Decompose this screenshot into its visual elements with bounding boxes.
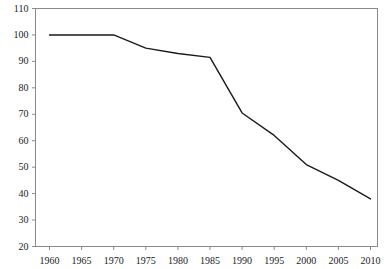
y-axis-tick-label: 40 xyxy=(0,189,29,199)
x-axis-tick-label: 1980 xyxy=(168,256,188,266)
y-axis-tick-label: 100 xyxy=(0,30,29,40)
y-axis-tick-label: 20 xyxy=(0,242,29,252)
x-axis-tick-label: 1975 xyxy=(136,256,156,266)
line-chart: 2030405060708090100110 19601965197019751… xyxy=(0,0,384,269)
y-axis-tick-label: 30 xyxy=(0,215,29,225)
y-axis-tick-marks xyxy=(32,9,36,247)
x-axis-tick-label: 1990 xyxy=(232,256,252,266)
y-axis-tick-label: 80 xyxy=(0,83,29,93)
y-axis-tick-label: 50 xyxy=(0,162,29,172)
x-axis-tick-label: 1970 xyxy=(104,256,124,266)
x-axis-tick-label: 1985 xyxy=(200,256,220,266)
x-axis-tick-label: 1995 xyxy=(264,256,284,266)
y-axis-tick-label: 110 xyxy=(0,4,29,14)
y-axis-tick-label: 60 xyxy=(0,136,29,146)
x-axis-tick-label: 2010 xyxy=(361,256,381,266)
x-axis-tick-label: 2005 xyxy=(328,256,348,266)
y-axis-tick-label: 70 xyxy=(0,109,29,119)
x-axis-tick-label: 1965 xyxy=(72,256,92,266)
x-axis-tick-marks xyxy=(50,247,371,251)
x-axis-tick-label: 1960 xyxy=(40,256,60,266)
y-axis-tick-label: 90 xyxy=(0,56,29,66)
plot-area xyxy=(0,0,384,269)
x-axis-tick-label: 2000 xyxy=(296,256,316,266)
plot-frame xyxy=(36,9,378,247)
